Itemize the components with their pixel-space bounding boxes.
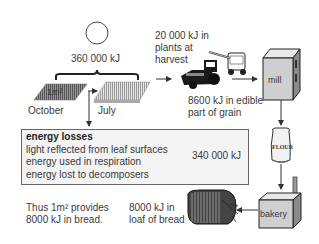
loss-item: energy lost to decomposers — [26, 169, 168, 182]
field-july-icon — [94, 82, 150, 103]
loss-item: light reflected from leaf surfaces — [26, 144, 168, 157]
bakery-label: bakery — [260, 208, 287, 220]
field-area-label: 1m² — [47, 86, 63, 98]
sun-icon — [86, 22, 108, 44]
energy-losses-title: energy losses — [26, 131, 168, 144]
energy-losses-total: 340 000 kJ — [192, 150, 241, 163]
bread-loaf-icon — [188, 190, 238, 224]
conclusion-text: Thus 1m² provides 8000 kJ in bread. — [26, 202, 109, 226]
grain-energy-label: 8600 kJ in edible part of grain — [188, 95, 263, 119]
sun-energy-label: 360 000 kJ — [71, 53, 120, 65]
month-october-label: October — [28, 105, 64, 117]
bakery-building-icon — [259, 177, 301, 228]
brace-icon — [56, 70, 138, 80]
energy-losses-box: energy losses light reflected from leaf … — [21, 129, 249, 185]
loss-item: energy used in respiration — [26, 156, 168, 169]
flour-label: FLOUR — [272, 141, 293, 153]
month-july-label: July — [98, 105, 116, 117]
mill-label: mill — [268, 74, 282, 86]
harvest-energy-label: 20 000 kJ in plants at harvest — [155, 30, 209, 66]
bread-energy-label: 8000 kJ in loaf of bread — [129, 202, 185, 226]
